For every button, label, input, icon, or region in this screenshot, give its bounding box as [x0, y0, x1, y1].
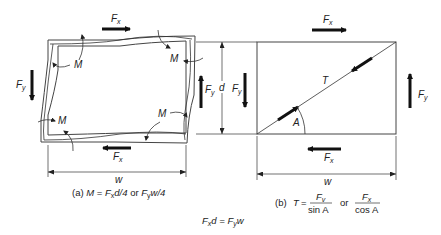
moment-arrow-left-top — [53, 63, 70, 67]
moment-arrow-top-right — [158, 30, 170, 48]
fx-label-bottom-b: Fx — [324, 152, 334, 164]
fy-label-right-b: Fy — [418, 89, 428, 102]
fy-label-left-b: Fy — [232, 83, 242, 96]
caption-b-prefix: (b) — [275, 197, 287, 208]
depth-label: d — [219, 82, 225, 93]
fy-label-left-a: Fy — [16, 79, 26, 92]
fy-label-right-a: Fy — [205, 84, 215, 97]
moment-label-top-right: M — [170, 53, 179, 64]
width-label-b: w — [324, 176, 332, 187]
tension-label: T — [322, 75, 329, 86]
caption-a: (a) M = Fxd/4 or Fyw/4 — [72, 187, 165, 200]
deflected-column-right — [184, 40, 191, 140]
caption-b-den1: sin A — [308, 204, 329, 215]
moment-arrow-top-left — [79, 35, 83, 60]
angle-label: A — [292, 117, 300, 128]
fx-label-bottom-a: Fx — [113, 151, 123, 163]
caption-b: (b) T = Fv sin A or Fx cos A — [275, 191, 380, 215]
caption-b-num2: Fx — [362, 191, 372, 203]
caption-b-or: or — [340, 197, 348, 208]
moment-label-bottom-left: M — [58, 115, 67, 126]
fx-label-top-b: Fx — [323, 14, 333, 26]
frame-shear-diagram: M M M M Fx Fx Fy Fy w (a) M = Fxd/4 or F… — [0, 0, 441, 235]
caption-b-den2: cos A — [355, 204, 379, 215]
frame-inner-outline — [48, 41, 186, 135]
width-label-a: w — [115, 174, 123, 185]
fx-label-top-a: Fx — [111, 13, 121, 25]
moment-label-top-left: M — [74, 59, 83, 70]
equilibrium-equation: Fxd = Fyw — [202, 215, 245, 228]
caption-b-eq: = — [301, 197, 307, 208]
tension-arrow-upper — [352, 58, 372, 71]
moment-label-bottom-right: M — [158, 108, 167, 119]
diagonal-tie — [257, 42, 396, 134]
caption-b-num1: Fv — [316, 191, 326, 203]
figure-a-forces: Fx Fx Fy Fy — [16, 13, 215, 163]
moment-arrow-right-top — [184, 58, 203, 62]
moment-arrow-bottom-right — [146, 122, 160, 140]
caption-b-t: T — [293, 197, 300, 208]
figure-b-truss-panel: T A Fx Fx Fy Fy — [232, 14, 428, 164]
